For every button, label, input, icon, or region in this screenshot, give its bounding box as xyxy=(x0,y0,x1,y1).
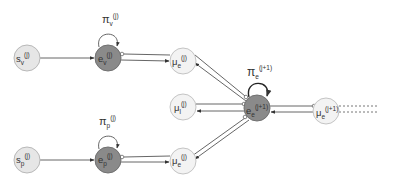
node-mu-e-top: μe(j) xyxy=(170,48,196,74)
edge-ee-mue-top-outer xyxy=(195,55,245,96)
label-pi-p: πp(j) xyxy=(99,114,116,130)
edge-ev-mue-top-lower xyxy=(121,60,169,61)
node-mu-e-bottom: μe(j) xyxy=(170,148,196,174)
edge-ee-mue-bottom-outer xyxy=(192,118,245,156)
node-mu-l: μl(j) xyxy=(170,94,196,120)
factor-graph-diagram: sv(j) ev(j) μe(j) μl(j) ee(j+1) μe(j+1) … xyxy=(0,0,394,183)
edge-ep-mue-bottom-upper xyxy=(124,156,170,157)
edge-origin-dot xyxy=(244,95,248,99)
node-e-p: ep(j) xyxy=(95,147,121,173)
node-e-v: ev(j) xyxy=(95,45,121,71)
node-s-v: sv(j) xyxy=(14,45,40,71)
edge-ev-mue-top-upper xyxy=(124,54,170,55)
node-s-p: sp(j) xyxy=(14,147,40,173)
node-mu-e-next: μe(j+1) xyxy=(313,98,339,124)
edge-ee-mue-top-inner xyxy=(195,63,246,101)
edge-ee-mue-bottom-inner xyxy=(195,120,249,159)
label-pi-v: πv(j) xyxy=(102,12,119,27)
node-e-e: ee(j+1) xyxy=(244,95,270,121)
label-pi-e: πe(j+1) xyxy=(247,64,272,80)
